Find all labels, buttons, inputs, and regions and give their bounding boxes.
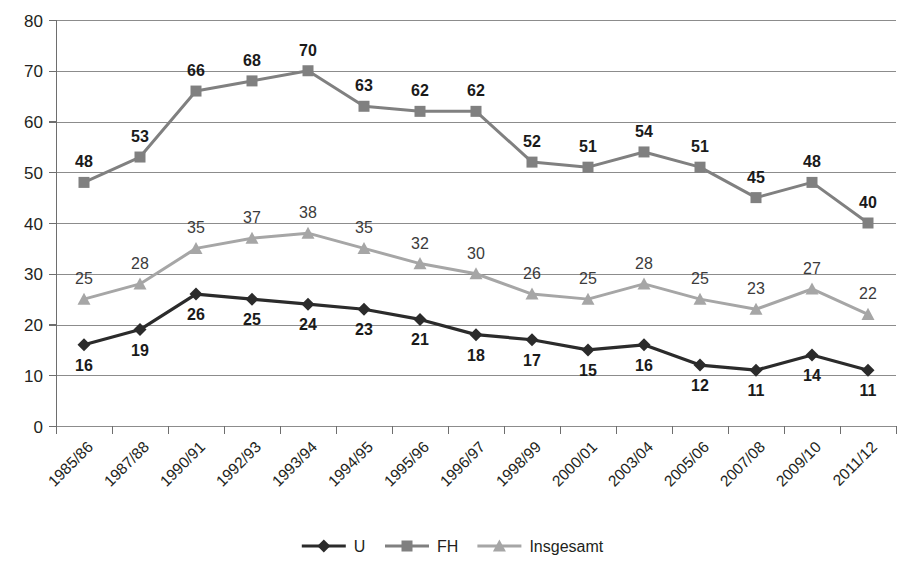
marker-square [527,157,538,168]
data-label-fh-3: 68 [243,52,261,69]
x-axis-label-12: 2007/08 [716,438,768,490]
legend-item-insgesamt[interactable]: Insgesamt [477,538,603,555]
marker-square [863,218,874,229]
data-label-insgesamt-8: 26 [523,265,541,282]
marker-square [359,101,370,112]
marker-diamond [246,293,259,306]
x-axis-label-14: 2011/12 [829,438,880,489]
legend-label-insgesamt: Insgesamt [529,538,603,555]
data-label-insgesamt-3: 37 [243,209,261,226]
data-label-insgesamt-12: 23 [747,280,765,297]
data-label-fh-11: 51 [691,138,709,155]
data-label-fh-6: 62 [411,82,429,99]
chart-canvas: 010203040506070801985/861987/881990/9119… [0,0,920,579]
legend-item-u[interactable]: U [302,538,366,555]
marker-diamond [358,303,371,316]
data-label-fh-10: 54 [635,123,653,140]
y-axis-label-70: 70 [24,62,43,81]
data-label-insgesamt-9: 25 [579,270,597,287]
data-label-fh-0: 48 [75,153,93,170]
marker-square [695,162,706,173]
legend-item-fh[interactable]: FH [385,538,458,555]
data-label-u-11: 12 [691,377,709,394]
data-label-fh-4: 70 [299,42,317,59]
data-labels-u: 161926252423211817151612111411 [75,306,876,399]
data-labels-fh: 485366687063626252515451454840 [75,42,877,211]
y-axis-label-50: 50 [24,164,43,183]
marker-square [191,86,202,97]
legend-label-u: U [354,538,366,555]
marker-diamond [750,364,763,377]
marker-triangle [134,277,147,289]
marker-diamond [414,313,427,326]
data-label-u-4: 24 [299,316,317,333]
marker-diamond [78,338,91,351]
marker-square [639,146,650,157]
x-axis-label-4: 1993/94 [268,438,320,490]
data-label-u-13: 14 [803,367,821,384]
marker-square [402,541,413,552]
data-label-fh-13: 48 [803,153,821,170]
chart-legend: UFHInsgesamt [302,538,604,555]
marker-square [303,65,314,76]
data-label-insgesamt-1: 28 [131,255,149,272]
x-axis-label-9: 2000/01 [548,438,600,490]
marker-diamond [526,333,539,346]
x-axis-labels: 1985/861987/881990/911992/931993/941994/… [44,438,880,490]
x-axis-label-13: 2009/10 [772,438,824,490]
data-label-fh-2: 66 [187,62,205,79]
marker-square [471,106,482,117]
data-label-fh-1: 53 [131,128,149,145]
data-label-insgesamt-6: 32 [411,235,429,252]
data-label-u-9: 15 [579,362,597,379]
data-label-u-3: 25 [243,311,261,328]
data-label-fh-14: 40 [859,194,877,211]
data-label-insgesamt-11: 25 [691,270,709,287]
marker-diamond [317,540,330,553]
data-label-u-10: 16 [635,357,653,374]
y-axis-label-30: 30 [24,265,43,284]
data-label-insgesamt-4: 38 [299,204,317,221]
y-gridlines: 01020304050607080 [24,12,896,437]
x-axis-label-7: 1996/97 [436,438,488,490]
y-axis-label-20: 20 [24,316,43,335]
marker-triangle [638,277,651,289]
marker-square [135,152,146,163]
x-axis-label-0: 1985/86 [44,438,96,490]
x-tickmarks [57,426,897,434]
data-label-u-7: 18 [467,347,485,364]
marker-diamond [638,338,651,351]
marker-square [415,106,426,117]
marker-square [583,162,594,173]
data-label-u-1: 19 [131,342,149,359]
x-axis-label-8: 1998/99 [492,438,544,490]
data-label-u-8: 17 [523,352,541,369]
data-label-u-14: 11 [860,382,877,399]
x-axis-label-11: 2005/06 [660,438,712,490]
marker-diamond [806,348,819,361]
data-label-u-0: 16 [75,357,93,374]
marker-square [807,177,818,188]
line-chart: 010203040506070801985/861987/881990/9119… [0,0,920,579]
data-label-fh-12: 45 [747,169,765,186]
x-axis-label-5: 1994/95 [324,438,376,490]
y-axis-label-40: 40 [24,215,43,234]
x-axis-label-10: 2003/04 [604,438,656,490]
data-label-fh-8: 52 [523,133,541,150]
legend-label-fh: FH [437,538,458,555]
x-axis-label-3: 1992/93 [212,438,264,490]
marker-diamond [582,343,595,356]
data-label-fh-9: 51 [579,138,597,155]
data-label-insgesamt-10: 28 [635,255,653,272]
marker-square [751,192,762,203]
data-label-u-12: 11 [748,382,765,399]
data-label-insgesamt-13: 27 [803,260,821,277]
marker-diamond [694,359,707,372]
marker-square [247,75,258,86]
data-label-insgesamt-0: 25 [75,270,93,287]
marker-diamond [470,328,483,341]
x-axis-label-2: 1990/91 [156,438,208,490]
data-label-u-2: 26 [187,306,205,323]
marker-diamond [302,298,315,311]
data-label-fh-5: 63 [355,77,373,94]
